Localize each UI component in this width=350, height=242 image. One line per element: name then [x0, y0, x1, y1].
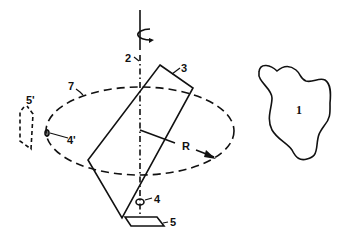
leader-4prime — [50, 133, 68, 138]
leader-5 — [163, 222, 168, 223]
label-plate-3: 3 — [181, 62, 187, 74]
base-plate-5prime — [20, 106, 33, 149]
label-axis-2: 2 — [125, 52, 131, 64]
label-base-5: 5 — [170, 216, 176, 228]
leader-7 — [76, 89, 83, 95]
radius-arrowhead-icon — [204, 150, 216, 159]
leader-3 — [172, 68, 180, 74]
leader-2 — [134, 57, 139, 61]
label-orbit-7: 7 — [68, 80, 74, 92]
base-plate-5 — [125, 217, 164, 226]
label-radius-R: R — [182, 140, 190, 152]
label-pivot-4prime: 4' — [67, 134, 76, 146]
object-1-blob — [259, 65, 331, 159]
leader-4 — [145, 198, 152, 200]
diagram-canvas: 2 3 7 5' 4' R 4 5 1 — [0, 0, 350, 242]
label-pivot-4: 4 — [154, 193, 161, 205]
label-object-1: 1 — [296, 103, 302, 117]
label-base-5prime: 5' — [26, 94, 35, 106]
